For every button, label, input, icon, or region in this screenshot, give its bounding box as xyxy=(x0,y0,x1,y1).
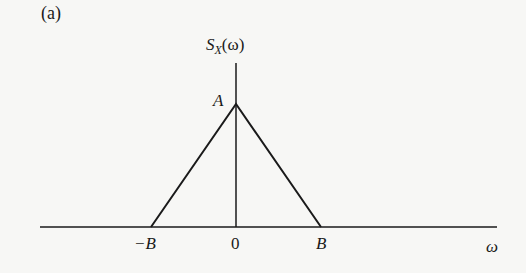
x-axis-label: ω xyxy=(486,238,498,255)
right-tick-label: B xyxy=(316,235,326,252)
y-axis-label: SX(ω) xyxy=(206,36,244,56)
peak-label: A xyxy=(213,92,223,109)
y-axis-label-arg: (ω) xyxy=(222,35,245,54)
origin-tick-label: 0 xyxy=(231,235,240,252)
y-axis-label-sub: X xyxy=(215,43,222,57)
y-axis-label-main: S xyxy=(206,35,215,54)
left-tick-label: −B xyxy=(134,235,156,252)
panel-label: (a) xyxy=(41,4,61,22)
power-spectrum-diagram xyxy=(0,0,526,273)
